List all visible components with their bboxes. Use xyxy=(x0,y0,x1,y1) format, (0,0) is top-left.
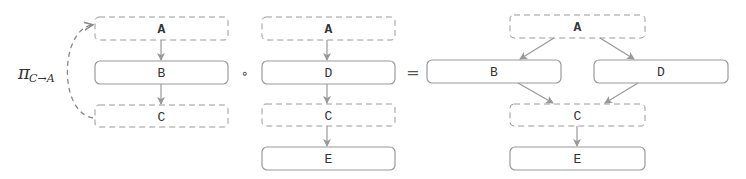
node-a: A xyxy=(510,15,645,38)
panel-result: A B D C E xyxy=(427,15,728,170)
svg-text:E: E xyxy=(574,152,582,167)
svg-text:C: C xyxy=(158,110,166,125)
node-e: E xyxy=(262,147,395,170)
compose-operator: ∘ xyxy=(242,65,249,81)
svg-text:A: A xyxy=(325,22,333,37)
arrow-a-b xyxy=(520,38,554,59)
svg-text:B: B xyxy=(158,66,166,81)
projection-operator: π C→A xyxy=(17,62,55,85)
node-c: C xyxy=(95,105,228,127)
node-a: A xyxy=(95,17,228,40)
node-e: E xyxy=(510,147,645,170)
node-d: D xyxy=(262,61,395,84)
equals-operator: = xyxy=(406,63,419,82)
svg-text:C: C xyxy=(574,109,582,124)
curved-dashed-arrow xyxy=(67,25,93,118)
svg-text:A: A xyxy=(158,22,166,37)
arrow-d-c xyxy=(605,83,638,103)
pi-subscript: C→A xyxy=(29,72,55,85)
node-a: A xyxy=(262,17,395,40)
node-d: D xyxy=(594,60,728,83)
svg-text:C: C xyxy=(325,109,333,124)
node-c: C xyxy=(262,104,395,126)
panel-projection: A B C xyxy=(95,17,228,127)
svg-text:A: A xyxy=(574,20,582,35)
svg-text:D: D xyxy=(325,66,333,81)
node-c: C xyxy=(510,104,645,126)
svg-text:D: D xyxy=(657,65,665,80)
diagram-canvas: π C→A A B C ∘ A D C xyxy=(0,0,746,179)
arrow-b-c xyxy=(518,83,553,103)
node-b: B xyxy=(95,61,228,84)
node-b: B xyxy=(427,60,561,83)
panel-chain: A D C E xyxy=(262,17,395,170)
svg-text:E: E xyxy=(325,152,333,167)
arrow-a-d xyxy=(600,38,634,59)
svg-text:B: B xyxy=(490,65,498,80)
